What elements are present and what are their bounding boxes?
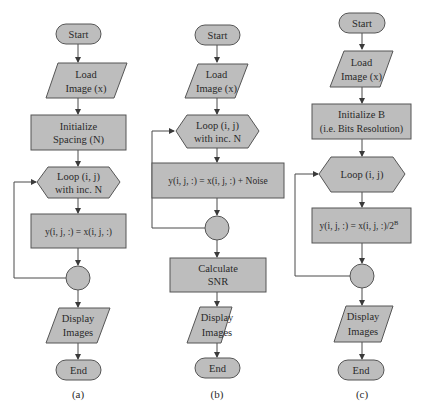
init-label-line1: Initialize bbox=[60, 121, 98, 132]
display-label-line2: Images bbox=[348, 326, 378, 337]
flowchart-b: Start Load Image (x) Loop (i, j) with in… bbox=[152, 25, 284, 401]
start-label: Start bbox=[69, 29, 89, 40]
display-label-line2: Images bbox=[202, 327, 232, 338]
end-label: End bbox=[353, 365, 371, 376]
init-label-line2: Spacing (N) bbox=[53, 134, 105, 146]
loop-label-line2: with inc. N bbox=[55, 184, 102, 195]
quantize-label-main: y(i, j, :) = x(i, j, :)/2 bbox=[320, 221, 395, 232]
loop-label-line1: Loop (i, j) bbox=[57, 171, 100, 183]
start-label: Start bbox=[352, 18, 372, 29]
add-noise-label: y(i, j, :) = x(i, j, :) + Noise bbox=[168, 176, 267, 187]
init-label-line2: (i.e. Bits Resolution) bbox=[320, 123, 403, 135]
init-label-line1: Initialize B bbox=[338, 109, 385, 120]
calc-label-line1: Calculate bbox=[198, 263, 238, 274]
load-label-line2: Image (x) bbox=[196, 83, 238, 95]
merge-connector bbox=[66, 266, 90, 290]
loop-label: Loop (i, j) bbox=[341, 169, 384, 181]
caption-a: (a) bbox=[72, 388, 85, 401]
display-label-line1: Display bbox=[62, 313, 95, 324]
quantize-label-superscript: B bbox=[394, 219, 399, 226]
assign-label: y(i, j, :) = x(i, j, :) bbox=[45, 227, 112, 238]
display-label-line1: Display bbox=[347, 311, 380, 322]
loop-label-line2: with inc. N bbox=[194, 133, 241, 144]
flowchart-a: Start Load Image (x) Initialize Spacing … bbox=[14, 24, 127, 401]
loop-label-line1: Loop (i, j) bbox=[196, 120, 239, 132]
flowchart-figure: Start Load Image (x) Initialize Spacing … bbox=[0, 0, 421, 411]
load-label-line1: Load bbox=[206, 69, 228, 80]
load-label-line1: Load bbox=[75, 69, 97, 80]
display-label-line2: Images bbox=[63, 327, 93, 338]
merge-connector bbox=[205, 216, 229, 240]
end-label: End bbox=[70, 365, 88, 376]
flowchart-c: Start Load Image (x) Initialize B (i.e. … bbox=[295, 13, 411, 401]
quantize-label: y(i, j, :) = x(i, j, :)/2B bbox=[320, 219, 400, 232]
start-label: Start bbox=[208, 30, 228, 41]
merge-connector bbox=[350, 264, 374, 288]
load-label-line2: Image (x) bbox=[65, 83, 107, 95]
calc-label-line2: SNR bbox=[208, 276, 228, 287]
display-label-line1: Display bbox=[201, 312, 234, 323]
caption-c: (c) bbox=[356, 388, 369, 401]
load-label-line2: Image (x) bbox=[341, 71, 383, 83]
caption-b: (b) bbox=[211, 388, 224, 401]
load-label-line1: Load bbox=[351, 57, 373, 68]
end-label: End bbox=[209, 363, 227, 374]
